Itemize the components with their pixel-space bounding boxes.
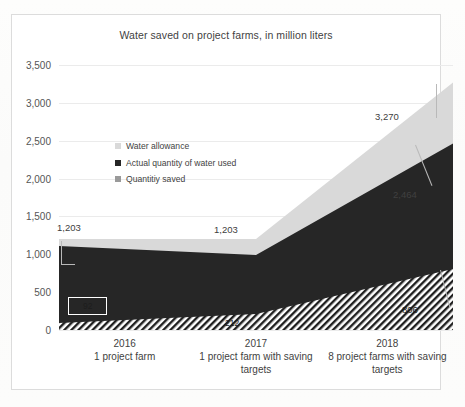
legend-item-quantity-saved[interactable]: Quantitiy saved [115, 175, 236, 184]
legend-swatch-water-allowance [115, 143, 121, 149]
ytick-label-2000: 2,000 [26, 173, 51, 184]
ytick-label-1000: 1,000 [26, 249, 51, 260]
x-axis-category-2016: 2016 1 project farm [59, 337, 190, 376]
ytick-label-3000: 3,000 [26, 97, 51, 108]
chart-title: Water saved on project farms, in million… [12, 29, 440, 41]
data-label-allowance-2017: 1,203 [214, 224, 238, 235]
x-axis-sublabel-2018: 8 project farms with saving targets [326, 350, 449, 376]
legend-item-water-allowance[interactable]: Water allowance [115, 142, 236, 151]
x-axis-year-2017: 2017 [194, 337, 317, 350]
x-axis-sublabel-2016: 1 project farm [63, 350, 186, 363]
x-axis-year-2018: 2018 [326, 337, 449, 350]
leader-line-1203-2016 [61, 241, 62, 265]
x-axis-year-2016: 2016 [63, 337, 186, 350]
x-axis-category-2018: 2018 8 project farms with saving targets [322, 337, 453, 376]
data-label-saved-2017: 212 [225, 318, 239, 328]
leader-line-1203-2016-foot [61, 264, 75, 265]
legend-swatch-actual-water-used [115, 160, 121, 166]
legend-swatch-quantity-saved [115, 176, 121, 182]
data-label-allowance-2016: 1,203 [57, 222, 81, 233]
legend-label-water-allowance: Water allowance [126, 142, 189, 151]
legend-item-actual-water-used[interactable]: Actual quantity of water used [115, 159, 236, 168]
ytick-label-500: 500 [34, 287, 51, 298]
ytick-label-2500: 2,500 [26, 135, 51, 146]
data-label-allowance-2018: 3,270 [375, 111, 399, 122]
data-label-saved-2016: 92 [68, 297, 107, 315]
data-label-actual-2018: 2,464 [393, 189, 417, 200]
ytick-label-1500: 1,500 [26, 211, 51, 222]
plot-area: 3,500 3,000 2,500 2,000 1,500 1,000 500 … [59, 65, 453, 330]
chart-container: Water saved on project farms, in million… [11, 14, 441, 390]
x-axis-labels: 2016 1 project farm 2017 1 project farm … [59, 337, 453, 376]
leader-line-3270 [436, 84, 437, 118]
x-axis-sublabel-2017: 1 project farm with saving targets [194, 350, 317, 376]
gridline-0: 0 [59, 330, 453, 331]
ytick-label-0: 0 [45, 325, 51, 336]
legend-label-actual-water-used: Actual quantity of water used [126, 159, 236, 168]
ytick-label-3500: 3,500 [26, 60, 51, 71]
data-label-saved-2018: 806 [402, 304, 418, 315]
x-axis-category-2017: 2017 1 project farm with saving targets [190, 337, 321, 376]
legend-label-quantity-saved: Quantitiy saved [126, 175, 185, 184]
chart-legend: Water allowance Actual quantity of water… [115, 142, 236, 192]
